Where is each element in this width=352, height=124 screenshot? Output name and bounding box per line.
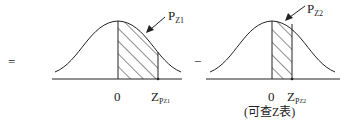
right-pointer-arrow (290, 6, 305, 17)
minus-sign: − (194, 55, 201, 68)
left-zero-label: 0 (114, 90, 121, 103)
left-pointer-label: PZ1 (168, 9, 184, 25)
equals-sign: = (8, 55, 15, 68)
right-zero-label: 0 (268, 90, 275, 103)
left-pointer-arrow (151, 17, 165, 29)
right-pointer-label: PZ2 (307, 2, 323, 18)
normal-distribution-diagram: = − PZ1 0 ZPZ1 PZ2 0 ZPZ2 (可查Z表) (0, 0, 352, 124)
left-z-label: ZPZ1 (151, 90, 170, 106)
left-normal-curve (52, 17, 182, 80)
right-z-label: ZPZ2 (287, 90, 306, 106)
z-table-note: (可查Z表) (244, 106, 295, 118)
